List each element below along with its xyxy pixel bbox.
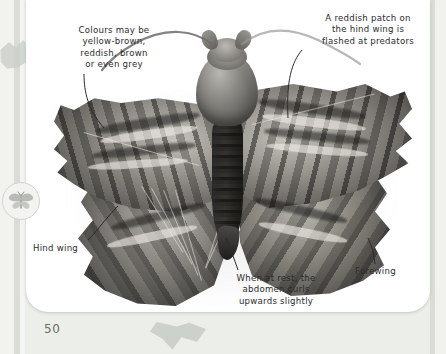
annotation-abdomen-note: When at rest, the abdomen curls upwards … (212, 273, 340, 307)
page-number: 50 (44, 322, 60, 336)
annotation-hind-wing-label: Hind wing (33, 243, 109, 254)
annotation-colour-note: Colours may be yellow-brown, reddish, br… (58, 25, 170, 71)
book-page: Colours may be yellow-brown, reddish, br… (0, 0, 446, 354)
moth-glyph-icon (8, 191, 34, 211)
annotation-reddish-patch-note: A reddish patch on the hind wing is flas… (300, 13, 430, 47)
annotation-forewing-label: Forewing (355, 266, 425, 277)
moth-badge-icon[interactable] (2, 182, 40, 220)
margin-strip-outer-right (435, 0, 446, 354)
content-card: Colours may be yellow-brown, reddish, br… (26, 0, 430, 312)
